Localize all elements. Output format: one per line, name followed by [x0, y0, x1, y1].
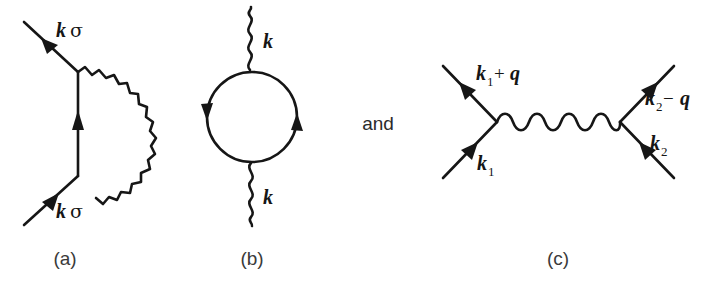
incoming-right-label-subscript: 2 [661, 144, 668, 159]
outgoing-right-label-base: k [645, 87, 655, 109]
feynman-diagram-figure: k σ k σ (a) k k (b) and [0, 0, 719, 284]
outgoing-left-label-base: k [476, 62, 486, 84]
incoming-right-label-base: k [650, 132, 660, 154]
panel-a-caption: (a) [53, 248, 76, 269]
incoming-electron-momentum-label: k [56, 200, 66, 222]
outgoing-electron-spin-label: σ [70, 19, 83, 41]
outgoing-right-label-subscript: 2 [656, 99, 663, 114]
figure-canvas: k σ k σ (a) k k (b) and [0, 0, 719, 284]
incoming-left-label-subscript: 1 [488, 164, 495, 179]
figure-background [0, 0, 719, 284]
outgoing-right-label-transfer: q [680, 87, 690, 110]
panel-c-caption: (c) [547, 248, 569, 269]
incoming-electron-spin-label: σ [70, 200, 83, 222]
outgoing-electron-momentum-label: k [56, 19, 66, 41]
connector-and-text: and [362, 113, 394, 134]
outgoing-right-label-operator: − [663, 88, 674, 109]
outgoing-left-label-transfer: q [510, 62, 520, 85]
top-boson-momentum-label: k [263, 30, 273, 52]
panel-b-caption: (b) [240, 248, 263, 269]
outgoing-left-label-operator: + [494, 63, 505, 84]
outgoing-left-label-subscript: 1 [487, 74, 494, 89]
incoming-left-label-base: k [477, 152, 487, 174]
bottom-boson-momentum-label: k [263, 186, 273, 208]
